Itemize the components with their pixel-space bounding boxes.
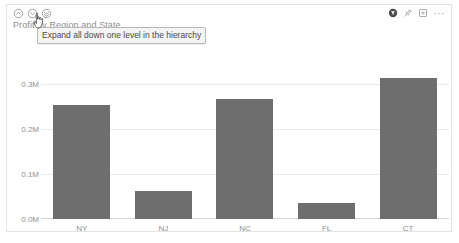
bar-NC[interactable] [216,99,273,219]
y-axis-tick: 0.1M [21,169,39,178]
bar-slot [123,61,205,219]
header-actions: ··· [388,8,445,18]
more-options-icon[interactable]: ··· [433,9,445,18]
bar-slot [367,61,449,219]
y-axis-tick: 0.0M [21,215,39,224]
bar-FL[interactable] [298,203,355,219]
tooltip-content: Expand all down one level in the hierarc… [37,27,206,44]
drill-up-icon[interactable] [13,8,24,19]
bar-CT[interactable] [380,78,437,219]
filter-icon[interactable] [388,8,398,18]
x-axis-tick: NJ [123,224,205,233]
plot-area [41,61,449,219]
y-axis: 0.0M 0.1M 0.2M 0.3M [13,61,41,219]
bar-NJ[interactable] [135,191,192,219]
bar-slot [286,61,368,219]
y-axis-tick: 0.2M [21,124,39,133]
x-axis-tick: NY [41,224,123,233]
x-axis-tick: CT [367,224,449,233]
x-axis-tick: NC [204,224,286,233]
x-axis: NY NJ NC FL CT [41,221,449,235]
bars-layer [41,61,449,219]
bar-slot [204,61,286,219]
x-axis-tick: FL [286,224,368,233]
focus-mode-icon[interactable] [418,8,428,18]
y-axis-tick: 0.3M [21,79,39,88]
pin-icon[interactable] [403,8,413,18]
bar-slot [41,61,123,219]
mouse-pointer-icon [31,11,47,31]
bar-NY[interactable] [53,105,110,219]
